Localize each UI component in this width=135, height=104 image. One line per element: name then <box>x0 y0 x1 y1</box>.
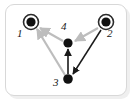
node-1-label: 1 <box>17 28 23 39</box>
node-4[interactable] <box>63 38 72 47</box>
node-3[interactable] <box>63 74 73 84</box>
node-4-label: 4 <box>61 21 67 32</box>
edge-layer <box>37 28 101 75</box>
edge-2-to-3 <box>73 30 101 74</box>
node-2-label: 2 <box>107 28 113 39</box>
node-2-core-dot <box>101 17 110 26</box>
node-3-dot <box>63 74 73 84</box>
node-1[interactable] <box>24 15 39 30</box>
node-4-dot <box>63 38 72 47</box>
diagram-screenshot: 1 2 3 4 <box>0 0 135 104</box>
node-3-label: 3 <box>53 77 59 88</box>
directed-graph-canvas <box>0 0 135 104</box>
edge-3-to-1 <box>37 29 65 75</box>
node-1-core-dot <box>26 17 35 26</box>
